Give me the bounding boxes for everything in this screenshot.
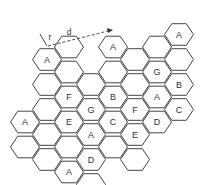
- cell-label: A: [88, 130, 94, 140]
- cell-label: A: [154, 92, 160, 102]
- cell-label: E: [66, 117, 72, 127]
- hex-cell: [121, 49, 150, 71]
- cell-label: A: [44, 55, 50, 65]
- cell-label: B: [110, 92, 116, 102]
- distance-label: d: [67, 27, 72, 37]
- hex-cell: [121, 74, 150, 96]
- cell-label: G: [153, 67, 160, 77]
- cell-label: F: [66, 92, 72, 102]
- cell-label: C: [176, 105, 183, 115]
- cell-label: C: [110, 117, 117, 127]
- hex-cell: [33, 99, 62, 121]
- cell-label: A: [176, 30, 182, 40]
- hex-cell: [33, 124, 62, 146]
- radius-label: r: [49, 32, 52, 42]
- cell-label: E: [132, 130, 138, 140]
- radius-line: [40, 34, 47, 46]
- cell-label: A: [22, 117, 28, 127]
- hex-cell: [33, 74, 62, 96]
- cell-label: D: [88, 155, 95, 165]
- hex-cell: [99, 136, 128, 158]
- hex-cell: [143, 36, 172, 58]
- cell-label: A: [66, 167, 72, 177]
- hex-cell: [55, 61, 84, 83]
- cell-label: F: [132, 105, 138, 115]
- cell-label: D: [154, 117, 161, 127]
- hex-cell: [33, 149, 62, 171]
- cell-grid: AAFEAGADABCFEGADABC: [11, 24, 194, 185]
- hex-cell: [77, 74, 106, 96]
- cell-label: A: [110, 42, 116, 52]
- hex-cell: [165, 49, 194, 71]
- hex-cell: [121, 149, 150, 171]
- cell-label: B: [176, 80, 182, 90]
- hex-cell: [55, 36, 84, 58]
- hex-cell: [99, 61, 128, 83]
- arrowhead-icon: [107, 28, 113, 33]
- hex-cell: [11, 136, 40, 158]
- cell-label: G: [87, 105, 94, 115]
- hex-cell: [55, 136, 84, 158]
- hex-reuse-diagram: AAFEAGADABCFEGADABC r d: [0, 0, 207, 185]
